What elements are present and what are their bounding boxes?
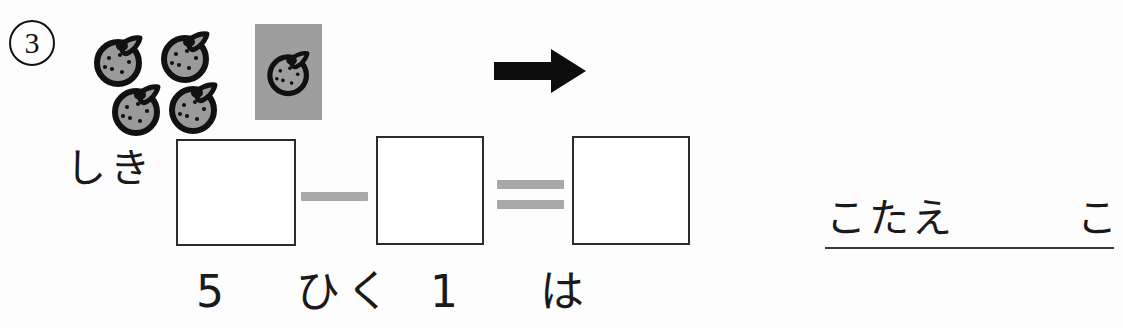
problem-number-badge: 3 (9, 20, 55, 66)
kotae-answer-rule[interactable] (825, 247, 1114, 249)
equation-operator-word: ひく (296, 262, 416, 322)
minuend-box[interactable] (176, 139, 296, 246)
equation-copula-text: は (540, 262, 600, 322)
mikan-icon-4 (163, 73, 225, 135)
equation-minuend-text: 5 (196, 262, 282, 322)
subtrahend-box[interactable] (376, 136, 484, 245)
result-box[interactable] (572, 136, 690, 245)
minus-operator (301, 192, 368, 201)
shiki-label: しき (66, 136, 154, 194)
equals-operator-bar-bottom (497, 200, 564, 209)
worksheet-page: 3 (0, 0, 1123, 328)
kotae-label: こたえ (826, 186, 955, 244)
right-arrow-icon (494, 49, 586, 93)
equation-subtrahend-text: 1 (430, 262, 526, 322)
kotae-unit-label: こ (1077, 186, 1123, 244)
equals-operator-bar-top (497, 180, 564, 189)
mikan-icon-5-removed (262, 43, 316, 97)
mikan-icon-3 (106, 75, 168, 137)
equation-reading-row: 5 ひく 1 は (196, 262, 616, 322)
